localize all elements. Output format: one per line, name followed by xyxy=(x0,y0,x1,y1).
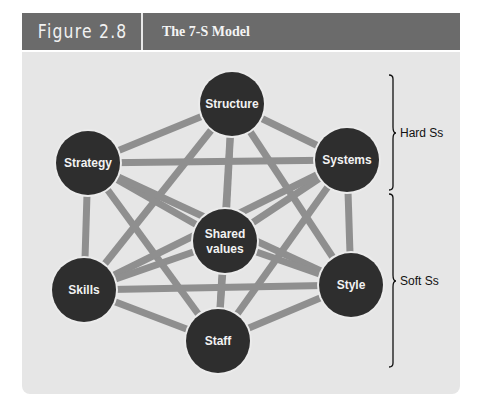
node-label: Strategy xyxy=(64,156,112,170)
node-structure: Structure xyxy=(198,70,266,138)
node-label: Staff xyxy=(205,334,233,348)
node-label: Systems xyxy=(322,153,372,167)
node-staff: Staff xyxy=(184,307,252,375)
node-label: Style xyxy=(337,278,366,292)
bracket-soft-ss xyxy=(389,194,396,367)
node-skills: Skills xyxy=(50,256,118,324)
node-label-line2: values xyxy=(206,242,244,256)
node-label: Skills xyxy=(68,283,100,297)
bracket-hard-ss xyxy=(389,75,396,190)
node-strategy: Strategy xyxy=(54,129,122,197)
node-label: Structure xyxy=(205,97,259,111)
soft-ss-label: Soft Ss xyxy=(400,274,439,288)
node-systems: Systems xyxy=(313,126,381,194)
node-style: Style xyxy=(317,251,385,319)
hard-ss-label: Hard Ss xyxy=(400,126,443,140)
node-label-line1: Shared xyxy=(205,227,246,241)
seven-s-diagram: Structure Strategy Systems Shared values… xyxy=(0,0,479,406)
node-shared-values: Shared values xyxy=(191,207,259,275)
